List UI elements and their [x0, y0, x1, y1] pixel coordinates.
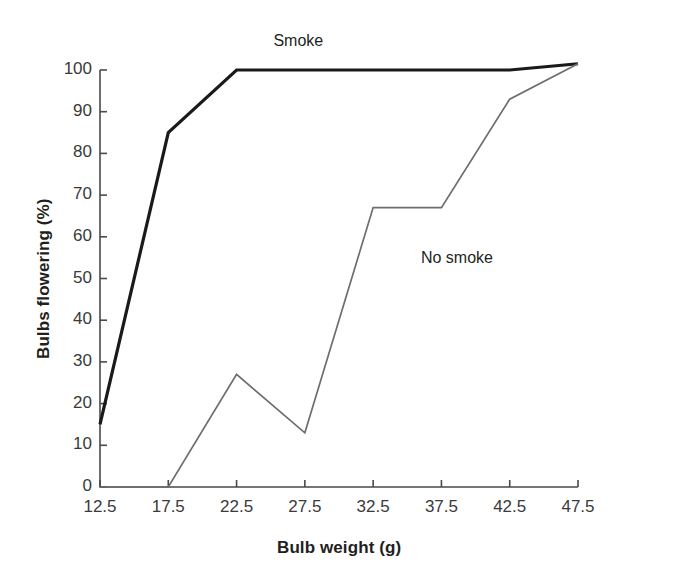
series-line-no-smoke [100, 64, 578, 487]
y-tick-label: 60 [32, 226, 92, 246]
x-tick-label: 47.5 [538, 497, 618, 517]
y-tick-label: 100 [32, 59, 92, 79]
series-annotation-no-smoke: No smoke [421, 249, 493, 267]
y-tick-label: 70 [32, 184, 92, 204]
y-tick-label: 10 [32, 434, 92, 454]
x-axis-title: Bulb weight (g) [277, 538, 401, 558]
y-tick-label: 30 [32, 351, 92, 371]
series-line-smoke [100, 64, 578, 425]
series-annotation-smoke: Smoke [273, 32, 323, 50]
data-series-group [100, 64, 578, 487]
y-tick-label: 20 [32, 393, 92, 413]
y-tick-label: 0 [32, 476, 92, 496]
axes [100, 70, 578, 487]
y-tick-label: 50 [32, 268, 92, 288]
axis-spine [100, 70, 578, 487]
y-tick-label: 80 [32, 142, 92, 162]
figure-container: Bulbs flowering (%) Bulb weight (g) 12.5… [0, 0, 700, 585]
y-tick-label: 40 [32, 309, 92, 329]
y-tick-label: 90 [32, 101, 92, 121]
